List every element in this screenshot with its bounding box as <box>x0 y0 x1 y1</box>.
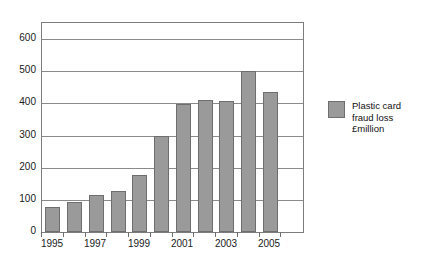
y-tick-label-200: 200 <box>0 162 36 172</box>
x-tick-8 <box>215 232 216 237</box>
x-tick-5 <box>150 232 151 237</box>
bar-2004 <box>241 71 256 232</box>
y-axis: 0100200300400500600 <box>0 22 36 232</box>
bar-1996 <box>67 202 82 232</box>
legend-label-plastic-card-fraud-loss: Plastic card fraud loss £million <box>352 100 401 135</box>
x-tick-2 <box>85 232 86 237</box>
y-tick-label-100: 100 <box>0 194 36 204</box>
x-tick-6 <box>172 232 173 237</box>
x-tick-label-2001: 2001 <box>171 238 193 250</box>
y-tick-label-300: 300 <box>0 130 36 140</box>
x-tick-7 <box>193 232 194 237</box>
x-tick-1 <box>63 232 64 237</box>
x-tick-label-1997: 1997 <box>84 238 106 250</box>
bar-2005 <box>263 92 278 232</box>
gridline-500 <box>42 71 303 72</box>
legend-swatch-plastic-card-fraud-loss <box>328 101 345 118</box>
x-tick-9 <box>237 232 238 237</box>
x-axis: 199519971999200120032005 <box>41 238 304 252</box>
x-tick-3 <box>106 232 107 237</box>
x-tick-label-2003: 2003 <box>215 238 237 250</box>
x-tick-11 <box>280 232 281 237</box>
plot-area <box>41 22 304 233</box>
bar-2001 <box>176 104 191 232</box>
chart-title: Plastic card fraud losses on UK-issued c… <box>64 0 354 3</box>
bar-2003 <box>219 101 234 232</box>
bar-2002 <box>198 100 213 232</box>
y-tick-label-500: 500 <box>0 65 36 75</box>
y-tick-label-0: 0 <box>0 226 36 236</box>
chart-legend: Plastic card fraud loss £million <box>328 100 432 135</box>
x-tick-4 <box>128 232 129 237</box>
y-tick-label-400: 400 <box>0 97 36 107</box>
x-tick-10 <box>259 232 260 237</box>
x-tick-0 <box>41 232 42 237</box>
x-tick-label-1999: 1999 <box>128 238 150 250</box>
x-tick-label-2005: 2005 <box>258 238 280 250</box>
gridline-600 <box>42 39 303 40</box>
x-axis-ticks <box>41 232 304 237</box>
bar-2000 <box>154 136 169 232</box>
bar-1995 <box>45 207 60 232</box>
x-tick-label-1995: 1995 <box>41 238 63 250</box>
bar-1997 <box>89 195 104 232</box>
bar-chart-figure: Plastic card fraud losses on UK-issued c… <box>0 0 434 263</box>
bar-1998 <box>111 191 126 232</box>
bar-1999 <box>132 175 147 232</box>
y-tick-label-600: 600 <box>0 33 36 43</box>
